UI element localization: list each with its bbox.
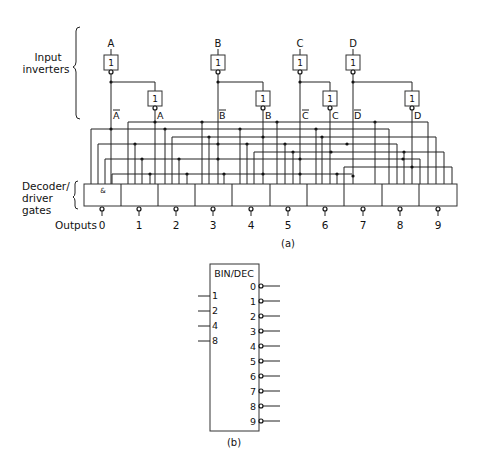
signal-b-bar: B <box>219 110 226 121</box>
output-label-6: 6 <box>322 219 329 231</box>
figure-a: Input inverters Decoder/ driver gates A … <box>22 27 457 249</box>
outputs-label: Outputs <box>55 219 97 231</box>
bin-input-2: 2 <box>212 305 218 316</box>
figure-b: BIN/DEC 1 2 4 8 0 1 2 3 4 5 6 7 8 <box>198 264 280 448</box>
output-label-9: 9 <box>435 219 442 231</box>
and-symbol: & <box>100 187 106 195</box>
output-label-8: 8 <box>397 219 404 231</box>
decoder-diagram: Input inverters Decoder/ driver gates A … <box>0 0 480 461</box>
output-label-2: 2 <box>173 219 180 231</box>
dec-output-9: 9 <box>250 416 256 427</box>
signal-a-bar: A <box>113 110 120 121</box>
output-label-0: 0 <box>99 219 106 231</box>
svg-text:1: 1 <box>350 58 356 68</box>
dec-output-8: 8 <box>250 401 256 412</box>
output-label-1: 1 <box>136 219 143 231</box>
bin-input-1: 1 <box>212 290 218 301</box>
inverter-group-d: D 1 1 D D <box>346 38 421 184</box>
input-label-b: B <box>215 38 222 49</box>
label-inverters: inverters <box>23 63 70 75</box>
svg-text:1: 1 <box>327 94 333 104</box>
dec-output-5: 5 <box>250 356 256 367</box>
dec-output-7: 7 <box>250 386 256 397</box>
output-label-3: 3 <box>210 219 217 231</box>
label-decoder: Decoder/ <box>22 180 70 192</box>
output-label-7: 7 <box>360 219 367 231</box>
dec-output-4: 4 <box>250 341 256 352</box>
bin-input-8: 8 <box>212 335 218 346</box>
inverter-group-a: A 1 1 A A <box>104 38 164 184</box>
inverter-group-b: B 1 1 B B <box>211 38 272 184</box>
input-label-d: D <box>349 38 357 49</box>
label-driver: driver <box>22 192 54 204</box>
signal-b: B <box>265 110 272 121</box>
dec-output-0: 0 <box>250 281 256 292</box>
output-bubbles <box>100 207 440 216</box>
caption-a: (a) <box>281 238 295 249</box>
bin-dec-title: BIN/DEC <box>214 268 254 279</box>
bin-input-4: 4 <box>212 320 218 331</box>
wiring-matrix <box>91 120 452 184</box>
output-label-5: 5 <box>285 219 292 231</box>
inverter-bubble-a <box>109 70 113 74</box>
signal-c-bar: C <box>302 110 309 121</box>
input-label-a: A <box>108 38 115 49</box>
svg-text:1: 1 <box>260 94 266 104</box>
decoder-gate-row: & <box>84 184 457 206</box>
svg-text:1: 1 <box>152 94 158 104</box>
svg-text:1: 1 <box>215 58 221 68</box>
signal-d-bar: D <box>354 110 361 121</box>
output-label-4: 4 <box>248 219 255 231</box>
brace-input-inverters <box>73 27 80 119</box>
label-gates: gates <box>22 204 51 216</box>
brace-decoder <box>73 181 78 209</box>
signal-a: A <box>157 110 164 121</box>
svg-text:1: 1 <box>297 58 303 68</box>
svg-text:1: 1 <box>108 58 114 68</box>
dec-output-3: 3 <box>250 326 256 337</box>
dec-output-6: 6 <box>250 371 256 382</box>
caption-b: (b) <box>227 437 241 448</box>
signal-c: C <box>332 110 339 121</box>
signal-d: D <box>414 110 421 121</box>
input-label-c: C <box>297 38 304 49</box>
dec-output-1: 1 <box>250 296 256 307</box>
label-input: Input <box>34 51 61 63</box>
dec-output-2: 2 <box>250 311 256 322</box>
svg-text:1: 1 <box>409 94 415 104</box>
